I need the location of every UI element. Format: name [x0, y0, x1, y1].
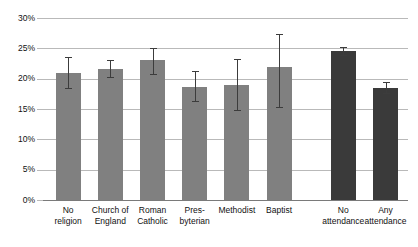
- x-axis-line: [43, 200, 408, 201]
- error-bar-cap-top: [340, 47, 347, 48]
- y-axis-tick-label: 5%: [4, 165, 35, 174]
- y-axis-tick-label: 15%: [4, 105, 35, 114]
- error-bar: [68, 57, 69, 88]
- error-bar: [237, 59, 238, 109]
- gridline: [43, 48, 408, 49]
- error-bar: [386, 82, 387, 93]
- chart-container: 0%5%10%15%20%25%30% NoreligionChurch ofE…: [0, 0, 418, 247]
- error-bar: [343, 47, 344, 55]
- bar: [373, 88, 398, 200]
- error-bar-cap-bottom: [192, 101, 199, 102]
- error-bar-cap-bottom: [383, 93, 390, 94]
- bar: [98, 69, 123, 200]
- bar: [56, 73, 81, 200]
- error-bar: [110, 60, 111, 77]
- plot-area: [43, 18, 408, 200]
- error-bar-cap-bottom: [107, 77, 114, 78]
- error-bar-cap-bottom: [150, 74, 157, 75]
- error-bar-cap-top: [234, 59, 241, 60]
- bar: [140, 60, 165, 200]
- error-bar: [153, 48, 154, 75]
- error-bar-cap-top: [276, 34, 283, 35]
- y-axis-tick-label: 0%: [4, 196, 35, 205]
- error-bar-cap-top: [192, 71, 199, 72]
- error-bar: [279, 34, 280, 107]
- y-axis-tick-label: 25%: [4, 44, 35, 53]
- error-bar-cap-top: [150, 48, 157, 49]
- error-bar-cap-top: [65, 57, 72, 58]
- gridline: [43, 18, 408, 19]
- y-axis-tick-label: 30%: [4, 14, 35, 23]
- error-bar-cap-bottom: [340, 55, 347, 56]
- bar: [182, 87, 207, 200]
- error-bar-cap-bottom: [65, 88, 72, 89]
- error-bar-cap-top: [383, 82, 390, 83]
- x-axis-tick-label: Anyattendance: [356, 205, 416, 226]
- bar: [331, 51, 356, 200]
- error-bar-cap-bottom: [276, 107, 283, 108]
- error-bar: [195, 71, 196, 101]
- y-axis-tick-label: 20%: [4, 74, 35, 83]
- error-bar-cap-top: [107, 60, 114, 61]
- error-bar-cap-bottom: [234, 110, 241, 111]
- x-axis-tick-label: Baptist: [249, 205, 309, 216]
- y-axis-tick-label: 10%: [4, 135, 35, 144]
- x-axis-labels: NoreligionChurch ofEnglandRomanCatholicP…: [43, 203, 408, 243]
